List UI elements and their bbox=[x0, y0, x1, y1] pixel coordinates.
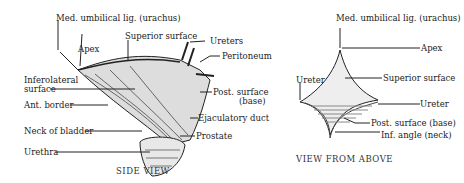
label-inf-angle: Inf. angle (neck) bbox=[381, 131, 452, 140]
label-urethra: Urethra bbox=[24, 148, 58, 157]
label-urachus-above: Med. umbilical lig. (urachus) bbox=[336, 14, 461, 23]
caption-view-from-above: VIEW FROM ABOVE bbox=[296, 154, 393, 164]
label-superior-surface-side: Superior surface bbox=[125, 32, 197, 41]
label-inferolateral-line2: surface bbox=[24, 85, 56, 94]
caption-side-view: SIDE VIEW bbox=[116, 166, 170, 176]
side-view-drawing bbox=[50, 20, 220, 176]
label-peritoneum: Peritoneum bbox=[222, 52, 272, 61]
label-post-surface-side-line2: (base) bbox=[239, 97, 266, 106]
label-prostate: Prostate bbox=[196, 132, 232, 141]
label-ureter-right: Ureter bbox=[420, 100, 449, 109]
label-neck-of-bladder: Neck of bladder bbox=[24, 127, 93, 136]
label-ant-border: Ant. border bbox=[24, 101, 74, 110]
label-apex-above: Apex bbox=[421, 44, 442, 53]
label-ureter-left: Ureter bbox=[296, 76, 325, 85]
label-superior-surface-above: Superior surface bbox=[383, 74, 455, 83]
label-urachus-side: Med. umbilical lig. (urachus) bbox=[56, 14, 181, 23]
label-ejaculatory-duct: Ejaculatory duct bbox=[198, 114, 269, 123]
label-apex-side: Apex bbox=[78, 45, 99, 54]
label-ureters: Ureters bbox=[210, 37, 243, 46]
label-post-surface-above: Post. surface (base) bbox=[371, 119, 456, 128]
